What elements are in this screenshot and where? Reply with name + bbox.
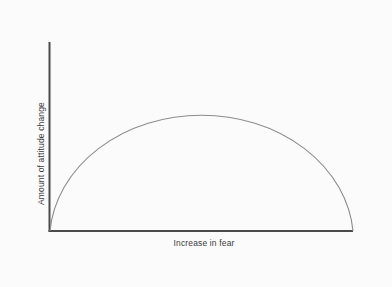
attitude-change-curve [50, 115, 353, 231]
y-axis-label: Amount of attitude change [36, 102, 46, 205]
figure-container: Increase in fear Amount of attitude chan… [0, 0, 392, 287]
x-axis-label: Increase in fear [0, 238, 392, 248]
